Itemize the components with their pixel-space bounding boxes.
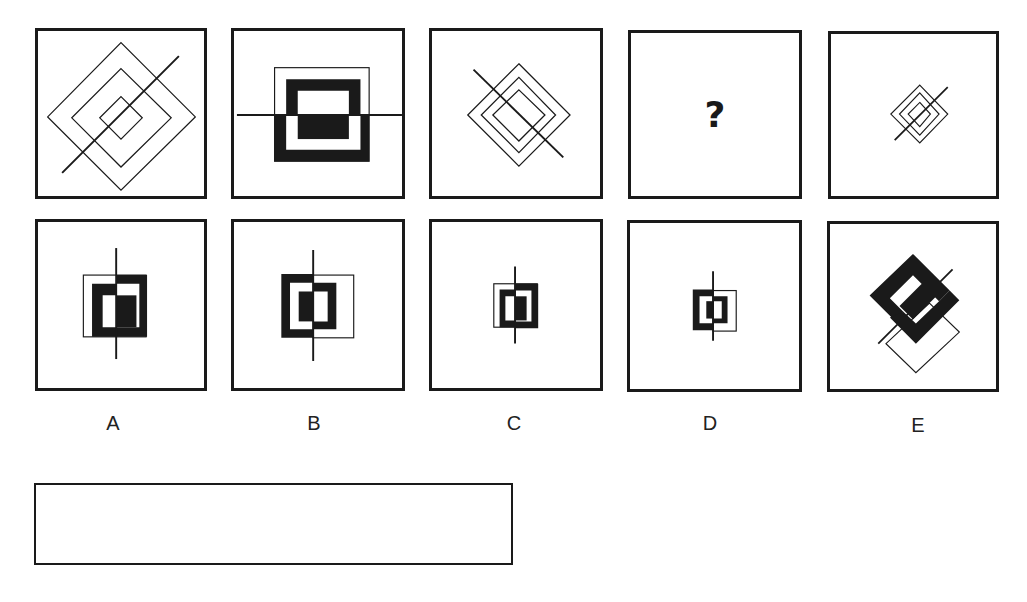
small-nested-diamonds-figure <box>831 34 996 196</box>
option-panel-b[interactable] <box>231 219 405 391</box>
offset-frames-figure <box>234 31 402 196</box>
option-label-e: E <box>898 414 938 437</box>
sequence-panel-5 <box>828 31 999 199</box>
option-label-a: A <box>93 412 133 435</box>
option-panel-d[interactable] <box>627 220 802 392</box>
option-panel-c[interactable] <box>429 219 603 391</box>
question-mark: ? <box>631 93 799 134</box>
small-offset-frames-figure <box>630 223 799 389</box>
offset-frames-figure <box>38 222 204 388</box>
sequence-panel-2 <box>231 28 405 199</box>
sequence-panel-4-missing: ? <box>628 30 802 199</box>
option-panel-e[interactable] <box>827 221 999 392</box>
sequence-panel-3 <box>429 28 603 199</box>
small-offset-frames-figure <box>432 222 600 388</box>
option-label-c: C <box>494 412 534 435</box>
option-label-d: D <box>690 412 730 435</box>
option-label-b: B <box>294 412 334 435</box>
option-panel-a[interactable] <box>35 219 207 391</box>
sequence-panel-1 <box>35 28 207 199</box>
nested-diamonds-figure <box>432 31 600 196</box>
answer-input-box[interactable] <box>34 483 513 565</box>
rotated-offset-frames-figure <box>830 224 996 389</box>
nested-diamonds-figure <box>38 31 204 196</box>
offset-frames-figure <box>234 222 402 388</box>
